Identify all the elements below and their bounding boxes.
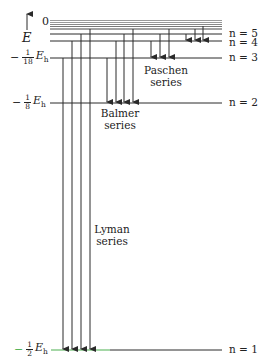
- continuum-band: [50, 21, 222, 30]
- balmer-series-arrows: [107, 29, 133, 102]
- level-label-n2: n = 2: [229, 97, 258, 108]
- balmer-series-label: Balmer series: [98, 107, 142, 131]
- energy-label-n2: −18Eh: [12, 94, 46, 110]
- level-label-n4: n = 4: [229, 37, 258, 48]
- energy-label-n1: −12Eh: [14, 341, 48, 357]
- level-label-n3: n = 3: [229, 52, 258, 63]
- brackett-series-arrows: [186, 26, 203, 40]
- level-label-n1: n = 1: [229, 344, 258, 355]
- energy-label-n3: −118Eh: [10, 49, 49, 65]
- paschen-series-label: Paschen series: [141, 64, 191, 88]
- energy-axis-label: E: [22, 31, 32, 44]
- lyman-series-arrows: [63, 29, 90, 349]
- lyman-series-label: Lyman series: [91, 223, 133, 247]
- zero-energy-label: 0: [42, 16, 49, 27]
- paschen-series-arrows: [151, 29, 169, 57]
